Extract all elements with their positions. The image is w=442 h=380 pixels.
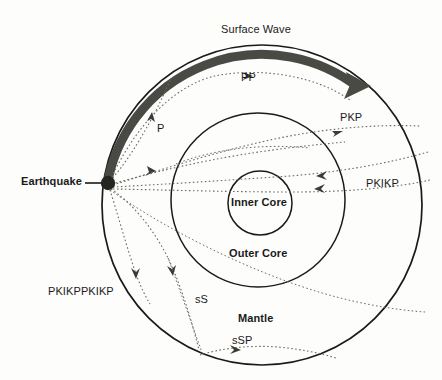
ray-path-pkikppkikp: [110, 190, 150, 304]
label-inner-core: Inner Core: [231, 197, 287, 208]
ray-arrow-pkp: [332, 131, 343, 137]
ray-arrow-pkikp-lower: [314, 184, 325, 193]
label-surface-wave: Surface Wave: [221, 24, 291, 35]
label-mantle: Mantle: [238, 313, 273, 324]
label-pkikppkikp: PKIKPPKIKP: [48, 286, 114, 297]
label-ss: sS: [195, 294, 208, 305]
ray-arrow-p-mantle: [145, 166, 156, 176]
ray-path-pp: [110, 72, 350, 181]
label-ssp: sSP: [232, 335, 252, 346]
ray-arrow-ssp: [230, 345, 241, 354]
earth-cross-section-svg: [0, 0, 442, 380]
label-pkikp: PKIKP: [366, 178, 399, 189]
label-outer-core: Outer Core: [229, 248, 287, 259]
ray-path-p-mantle: [112, 142, 345, 184]
ray-arrow-pkikppkikp: [131, 268, 140, 279]
label-pp: PP: [241, 72, 256, 83]
seismic-wave-diagram: Earthquake Surface Wave PP P PKP PKIKP P…: [0, 0, 442, 380]
label-p: P: [157, 123, 164, 134]
ray-path-ss: [111, 189, 199, 350]
earthquake-focus-dot: [101, 176, 115, 190]
surface-wave-arc: [107, 54, 359, 186]
label-earthquake: Earthquake: [21, 176, 82, 187]
ray-path-core-upper-curve: [176, 146, 310, 164]
label-pkp: PKP: [340, 112, 362, 123]
